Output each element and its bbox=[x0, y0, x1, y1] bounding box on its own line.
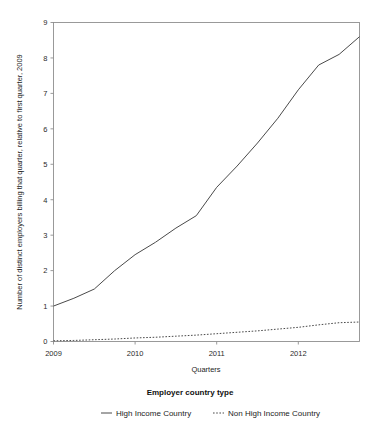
x-tick-label: 2012 bbox=[290, 349, 307, 358]
y-tick-label: 9 bbox=[43, 18, 47, 27]
legend-entry-non-high-income-country[interactable]: Non High Income Country bbox=[213, 409, 320, 418]
x-tick-label: 2011 bbox=[209, 349, 225, 358]
legend-label-non-high-income-country: Non High Income Country bbox=[228, 409, 320, 418]
legend-label-high-income-country: High Income Country bbox=[116, 409, 191, 418]
y-tick-label: 7 bbox=[43, 89, 47, 98]
x-axis-title: Quarters bbox=[191, 365, 220, 374]
y-tick-label: 0 bbox=[43, 337, 47, 346]
figure-background bbox=[0, 0, 379, 430]
y-tick-label: 2 bbox=[43, 266, 47, 275]
y-tick-label: 5 bbox=[43, 160, 47, 169]
y-tick-label: 6 bbox=[43, 125, 47, 134]
y-tick-label: 4 bbox=[43, 196, 47, 205]
y-tick-label: 1 bbox=[43, 302, 47, 311]
y-tick-label: 8 bbox=[43, 54, 47, 63]
x-tick-label: 2009 bbox=[45, 349, 62, 358]
y-tick-label: 3 bbox=[43, 231, 47, 240]
legend-title: Employer country type bbox=[147, 388, 234, 397]
x-tick-label: 2010 bbox=[127, 349, 144, 358]
y-axis-title: Number of distinct employers billing tha… bbox=[15, 54, 24, 310]
line-chart-figure: 0123456789 2009201020112012 Number of di… bbox=[0, 0, 379, 430]
